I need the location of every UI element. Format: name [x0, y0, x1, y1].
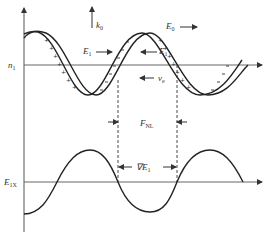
electron-velocity: ve [140, 73, 165, 84]
svg-text:+: + [66, 76, 71, 83]
svg-text:∇E1: ∇E1 [136, 162, 151, 173]
svg-text:+: + [49, 44, 54, 51]
svg-text:+: + [167, 52, 172, 59]
svg-text:+: + [61, 68, 66, 75]
e1-field-left: E1 [82, 46, 112, 57]
svg-text:+: + [72, 83, 77, 90]
svg-text:E0: E0 [165, 21, 175, 32]
field-gradient: ∇E1 [119, 162, 176, 173]
svg-text:+: + [186, 83, 191, 90]
svg-text:+: + [44, 36, 49, 43]
svg-text:+: + [180, 76, 185, 83]
wave-diagram: +++ ++++ +++ ++++ k0 E0 E1 E1 [0, 0, 269, 237]
e0-pump-field: E0 [165, 21, 197, 32]
svg-text:E1: E1 [82, 46, 92, 57]
svg-text:ve: ve [158, 73, 165, 84]
svg-text:+: + [171, 60, 176, 67]
svg-text:FNL: FNL [139, 118, 154, 129]
svg-text:+: + [158, 36, 163, 43]
upper-wave-band: +++ ++++ +++ ++++ [24, 31, 248, 95]
svg-text:+: + [175, 68, 180, 75]
svg-text:+: + [53, 52, 58, 59]
n1-axis-label: n1 [8, 60, 16, 71]
svg-text:+: + [57, 60, 62, 67]
svg-text:k0: k0 [96, 20, 103, 31]
k0-wave-vector: k0 [92, 7, 103, 31]
e1x-axis-label: E1X [3, 177, 18, 188]
e1-field-right: E1 [141, 46, 168, 57]
nonlinear-force: FNL [108, 118, 187, 129]
